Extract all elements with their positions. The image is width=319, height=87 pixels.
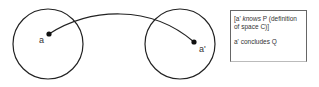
point-a-prime-label: a': [199, 45, 206, 54]
left-space-circle: [13, 9, 83, 79]
point-a-label: a: [39, 36, 44, 45]
point-a-dot: [46, 31, 51, 36]
point-a-prime-dot: [191, 39, 196, 44]
note-line-1: [a' knows P (definition of space C)]: [234, 15, 303, 31]
note-box: [a' knows P (definition of space C)] a' …: [230, 10, 307, 62]
note-line-2: a' concludes Q: [234, 38, 303, 46]
